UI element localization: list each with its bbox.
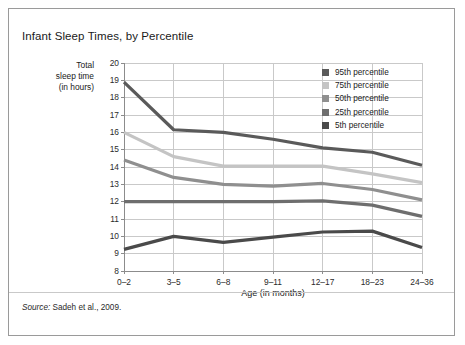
x-axis-tick-label: 3–5 [149, 277, 199, 287]
y-axis-tick-label: 9 [97, 248, 119, 258]
legend-swatch-icon [322, 122, 329, 129]
page-title: Infant Sleep Times, by Percentile [22, 30, 193, 42]
y-axis-tick-label: 11 [97, 214, 119, 224]
y-axis-title-line-3: (in hours) [22, 82, 94, 93]
legend-swatch-icon [322, 69, 329, 76]
source-note: Source: Sadeh et al., 2009. [22, 303, 121, 312]
y-axis-tick-label: 20 [97, 58, 119, 68]
y-axis-tick-label: 13 [97, 179, 119, 189]
y-axis-title: Total sleep time (in hours) [22, 60, 94, 94]
x-axis-title: Age (in months) [124, 288, 422, 298]
y-axis-tick-label: 17 [97, 110, 119, 120]
legend-item-label: 25th percentile [335, 108, 389, 117]
x-axis-tick-label: 12–17 [298, 277, 348, 287]
source-divider [9, 292, 454, 293]
figure-page: Infant Sleep Times, by Percentile Total … [0, 0, 465, 345]
x-axis-tick-label: 6–8 [198, 277, 248, 287]
legend-item-label: 95th percentile [335, 68, 389, 77]
source-text: Sadeh et al., 2009. [50, 303, 121, 312]
y-axis-tick-label: 18 [97, 92, 119, 102]
y-axis-title-line-1: Total [22, 60, 94, 71]
source-label: Source: [22, 303, 50, 312]
y-axis-tick-label: 14 [97, 162, 119, 172]
legend-item: 50th percentile [322, 92, 430, 105]
y-axis-tick-label: 15 [97, 144, 119, 154]
legend-item-label: 5th percentile [335, 121, 384, 130]
y-axis-tick-label: 8 [97, 266, 119, 276]
x-axis-tick-label: 18–23 [347, 277, 397, 287]
legend-swatch-icon [322, 109, 329, 116]
legend-swatch-icon [322, 95, 329, 102]
legend-swatch-icon [322, 82, 329, 89]
y-axis-tick-label: 12 [97, 196, 119, 206]
y-axis-tick-label: 10 [97, 231, 119, 241]
legend-item-label: 75th percentile [335, 81, 389, 90]
y-axis-title-line-2: sleep time [22, 71, 94, 82]
legend-item-label: 50th percentile [335, 94, 389, 103]
x-axis-tick-label: 0–2 [99, 277, 149, 287]
chart-legend: 95th percentile75th percentile50th perce… [322, 66, 430, 132]
x-axis-tick-label: 9–11 [248, 277, 298, 287]
legend-item: 75th percentile [322, 79, 430, 92]
legend-item: 5th percentile [322, 119, 430, 132]
y-axis-tick-label: 19 [97, 75, 119, 85]
y-axis-tick-label: 16 [97, 127, 119, 137]
x-axis-tick-label: 24–36 [397, 277, 447, 287]
legend-item: 25th percentile [322, 106, 430, 119]
legend-item: 95th percentile [322, 66, 430, 79]
